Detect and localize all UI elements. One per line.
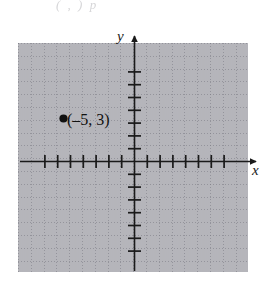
axes-and-point [0, 0, 270, 281]
x-axis-label: x [252, 163, 259, 178]
coordinate-plane-figure: y x (–5, 3) [0, 0, 270, 281]
point-coordinate-label: (–5, 3) [67, 112, 110, 128]
y-axis-label: y [117, 29, 124, 44]
